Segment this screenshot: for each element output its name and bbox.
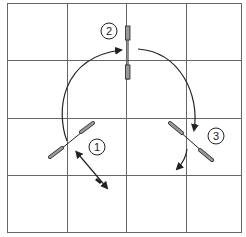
object-position-1: [50, 123, 93, 158]
double-arrow-1: [79, 155, 107, 188]
small-arrow-from-3: [177, 149, 187, 169]
diagram-canvas: 2 1 3: [0, 0, 246, 237]
label-circle-3: 3: [208, 128, 224, 144]
label-circle-2: 2: [101, 23, 117, 39]
svg-text:1: 1: [94, 141, 100, 153]
grid: [8, 4, 242, 233]
svg-text:2: 2: [106, 25, 112, 37]
label-circle-1: 1: [89, 139, 105, 155]
arc-arrow-1-to-2: [62, 50, 121, 141]
svg-text:3: 3: [213, 130, 219, 142]
object-position-3: [170, 123, 212, 160]
